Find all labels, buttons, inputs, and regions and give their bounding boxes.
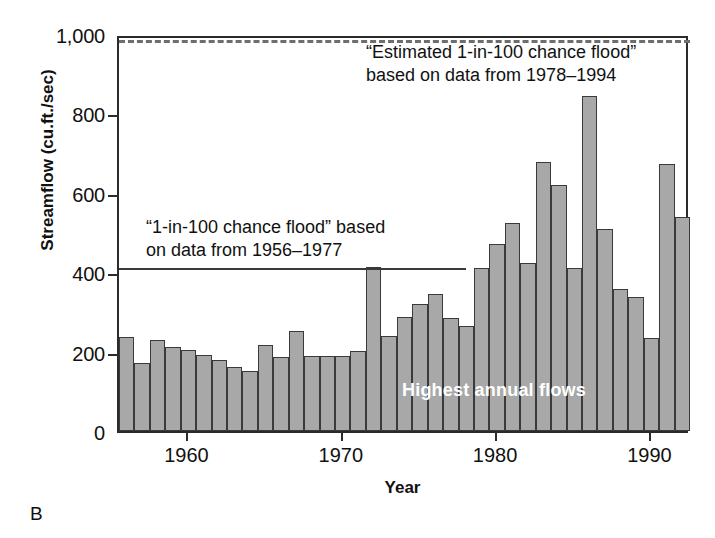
x-tick-mark <box>186 433 188 441</box>
bar <box>567 268 582 431</box>
bar <box>320 356 335 431</box>
bar <box>134 363 149 431</box>
y-tick-label: 0 <box>21 423 105 443</box>
y-tick-label: 800 <box>21 105 105 125</box>
bar <box>412 304 427 431</box>
bar <box>304 356 319 431</box>
bar <box>675 217 690 431</box>
bar <box>273 357 288 431</box>
bar <box>428 294 443 431</box>
bar <box>520 263 535 431</box>
x-tick-mark <box>341 433 343 441</box>
bar <box>613 289 628 431</box>
y-axis-label: Streamflow (cu.ft./sec) <box>38 20 58 300</box>
bar <box>381 336 396 431</box>
bar <box>150 340 165 431</box>
annotation-chance-flood: “1-in-100 chance flood” based on data fr… <box>146 216 385 262</box>
y-tick-label: 600 <box>21 185 105 205</box>
bar <box>350 351 365 431</box>
x-axis-label: Year <box>117 478 688 498</box>
panel-letter: B <box>30 503 43 525</box>
bar <box>196 355 211 431</box>
bar <box>181 350 196 431</box>
y-tick-mark <box>108 195 117 197</box>
bar <box>242 371 257 431</box>
y-tick-label: 200 <box>21 344 105 364</box>
bar <box>443 318 458 431</box>
bar <box>212 360 227 431</box>
y-tick-mark <box>108 115 117 117</box>
x-tick-mark <box>495 433 497 441</box>
bar <box>165 347 180 431</box>
bar <box>366 267 381 431</box>
x-tick-label: 1980 <box>455 444 535 467</box>
bar <box>227 367 242 431</box>
bar <box>474 268 489 431</box>
figure-panel-b: Streamflow (cu.ft./sec) 02004006008001,0… <box>0 0 715 538</box>
bar <box>289 331 304 431</box>
bar <box>258 345 273 431</box>
x-tick-label: 1970 <box>301 444 381 467</box>
x-tick-label: 1960 <box>146 444 226 467</box>
x-tick-mark <box>649 433 651 441</box>
y-tick-label: 1,000 <box>21 26 105 46</box>
y-tick-label: 400 <box>21 264 105 284</box>
bar <box>628 297 643 431</box>
y-tick-mark <box>108 354 117 356</box>
bar <box>659 164 674 431</box>
bar <box>397 317 412 431</box>
bar <box>335 356 350 431</box>
y-tick-mark <box>108 274 117 276</box>
x-tick-label: 1990 <box>609 444 689 467</box>
bar <box>644 338 659 431</box>
annotation-estimated-flood: “Estimated 1-in-100 chance flood” based … <box>366 41 636 87</box>
bar <box>459 326 474 431</box>
bar <box>119 337 134 431</box>
reference-line-solid <box>119 268 466 270</box>
bar <box>489 244 504 431</box>
highest-annual-flows-label: Highest annual flows <box>402 380 586 401</box>
bar <box>597 229 612 431</box>
